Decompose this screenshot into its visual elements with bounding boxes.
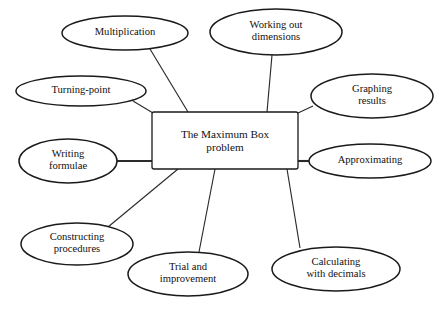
branch-working-out-dimensions-label: Working outdimensions xyxy=(250,19,303,42)
branch-node-working-out-dimensions[interactable]: Working outdimensions xyxy=(210,9,342,55)
branch-node-trial-and-improvement[interactable]: Trial andimprovement xyxy=(128,252,248,296)
branch-calculating-with-decimals-label: Calculatingwith decimals xyxy=(306,256,365,279)
connector-calculating-with-decimals xyxy=(287,169,300,248)
mind-map-canvas: The Maximum BoxproblemMultiplicationWork… xyxy=(0,0,445,313)
connector-constructing-procedures xyxy=(108,169,178,227)
connector-trial-and-improvement xyxy=(199,169,215,252)
branch-node-multiplication[interactable]: Multiplication xyxy=(62,16,188,50)
nodes-layer: The Maximum BoxproblemMultiplicationWork… xyxy=(16,9,433,296)
branch-node-graphing-results[interactable]: Graphingresults xyxy=(311,74,433,118)
branch-node-writing-formulae[interactable]: Writingformulae xyxy=(19,139,117,183)
branch-node-constructing-procedures[interactable]: Constructingprocedures xyxy=(21,223,133,265)
connector-multiplication xyxy=(150,49,188,112)
branch-node-calculating-with-decimals[interactable]: Calculatingwith decimals xyxy=(272,247,400,291)
branch-turning-point-label: Turning-point xyxy=(51,85,110,96)
branch-node-approximating[interactable]: Approximating xyxy=(309,144,431,178)
connector-turning-point xyxy=(133,101,153,113)
branch-writing-formulae-label: Writingformulae xyxy=(49,148,88,171)
branch-multiplication-label: Multiplication xyxy=(95,27,156,38)
connector-graphing-results xyxy=(298,106,313,113)
connector-working-out-dimensions xyxy=(267,55,272,112)
branch-approximating-label: Approximating xyxy=(338,155,403,166)
mind-map-diagram: The Maximum BoxproblemMultiplicationWork… xyxy=(0,0,445,313)
branch-node-turning-point[interactable]: Turning-point xyxy=(16,76,146,106)
branch-constructing-procedures-label: Constructingprocedures xyxy=(50,231,105,254)
